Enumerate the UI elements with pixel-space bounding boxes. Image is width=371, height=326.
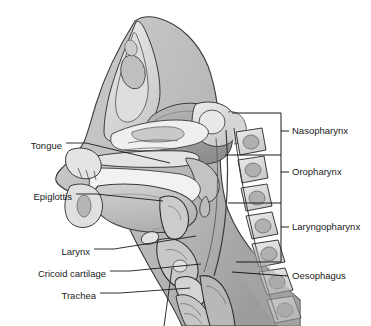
anatomy-figure: Tongue Epiglottis Larynx Cricoid cartila… (0, 0, 371, 326)
label-tongue: Tongue (0, 141, 62, 151)
label-larynx: Larynx (0, 247, 90, 257)
label-trachea: Trachea (0, 291, 96, 301)
label-epiglottis: Epiglottis (0, 192, 72, 202)
label-nasopharynx: Nasopharynx (292, 126, 348, 136)
label-cricoid-cartilage: Cricoid cartilage (0, 269, 106, 279)
label-oesophagus: Oesophagus (292, 271, 346, 281)
label-laryngopharynx: Laryngopharynx (292, 222, 360, 232)
label-oropharynx: Oropharynx (292, 167, 342, 177)
